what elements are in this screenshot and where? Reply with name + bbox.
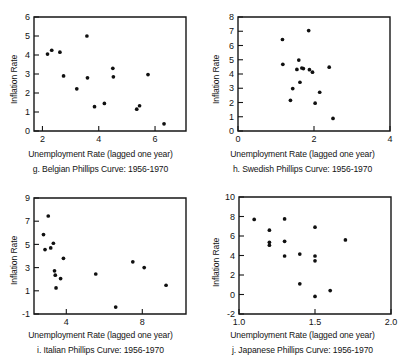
data-point: [62, 74, 66, 78]
data-point: [142, 266, 146, 270]
y-axis-title-italian: Inflation Rate: [9, 236, 19, 285]
y-tick-label: 2: [230, 270, 235, 280]
y-tick-label: 10: [225, 192, 235, 202]
data-point: [297, 58, 301, 62]
y-tick-label: 8: [230, 212, 235, 222]
data-point: [298, 80, 302, 84]
y-tick-label: 2: [229, 98, 234, 108]
y-tick-label: 1: [25, 286, 30, 296]
data-point: [164, 283, 168, 287]
data-point: [308, 68, 312, 72]
chart-panel-swedish: 012345678024 Unemployment Rate (lagged o…: [202, 0, 403, 181]
y-tick-label: 4: [25, 50, 30, 60]
data-point: [302, 67, 306, 71]
data-point: [327, 65, 331, 69]
x-tick-label: 6: [153, 134, 158, 144]
plot-frame: [238, 17, 390, 131]
plot-frame: [34, 17, 186, 131]
data-point: [289, 99, 293, 103]
data-point: [54, 286, 58, 290]
data-point: [138, 104, 142, 108]
data-point: [111, 66, 115, 70]
data-point: [135, 107, 139, 111]
x-tick-label: 1.0: [233, 317, 246, 327]
data-point: [283, 240, 287, 244]
data-point: [318, 90, 322, 94]
data-point: [313, 225, 317, 229]
y-tick-label: 8: [229, 12, 234, 22]
data-point: [281, 62, 285, 66]
data-point: [252, 218, 256, 222]
y-axis-title-japanese: Inflation Rate: [211, 238, 221, 287]
data-point: [295, 68, 299, 72]
x-tick-label: 4: [96, 134, 101, 144]
data-point: [94, 272, 98, 276]
y-tick-label: 0: [230, 290, 235, 300]
data-point: [75, 87, 79, 91]
data-point: [131, 260, 135, 264]
y-tick-label: 4: [230, 251, 235, 261]
data-point: [298, 282, 302, 286]
data-point: [328, 289, 332, 293]
y-tick-label: 0: [25, 126, 30, 136]
phillips-curve-figure: 0123456246 Unemployment Rate (lagged one…: [0, 0, 403, 363]
y-tick-label: 5: [25, 240, 30, 250]
x-axis-title-italian: Unemployment Rate (lagged one year): [0, 330, 201, 340]
data-point: [146, 73, 150, 77]
data-point: [313, 259, 317, 263]
y-tick-label: 0: [229, 126, 234, 136]
data-point: [112, 75, 116, 79]
data-point: [93, 105, 97, 109]
data-point: [43, 248, 47, 252]
y-tick-label: 2: [25, 88, 30, 98]
y-tick-label: 5: [25, 31, 30, 41]
data-point: [298, 252, 302, 256]
data-point: [268, 243, 272, 247]
data-point: [281, 38, 285, 42]
data-point: [86, 76, 90, 80]
chart-caption-belgian: g. Belgian Phillips Curve: 1956-1970: [0, 164, 201, 174]
data-point: [59, 277, 63, 281]
y-tick-label: 3: [229, 83, 234, 93]
x-tick-label: 2: [311, 134, 316, 144]
data-point: [52, 241, 56, 245]
data-point: [46, 52, 50, 56]
y-axis-title-swedish: Inflation Rate: [211, 55, 221, 104]
data-point: [50, 48, 54, 52]
data-point: [42, 233, 46, 237]
x-axis-title-swedish: Unemployment Rate (lagged one year): [202, 149, 403, 159]
y-tick-label: 6: [25, 12, 30, 22]
plot-frame: [34, 198, 186, 314]
data-point: [283, 217, 287, 221]
y-tick-label: 4: [229, 69, 234, 79]
data-point: [313, 101, 317, 105]
y-tick-label: 9: [25, 193, 30, 203]
x-tick-label: 4: [64, 317, 69, 327]
x-tick-label: 4: [387, 134, 392, 144]
data-point: [62, 256, 66, 260]
data-point: [58, 50, 62, 54]
data-point: [49, 246, 53, 250]
x-tick-label: 2.0: [385, 317, 398, 327]
data-point: [283, 254, 287, 258]
chart-panel-japanese: -202468101.01.52.0 Unemployment Rate (la…: [202, 181, 403, 362]
x-axis-title-japanese: Unemployment Rate (lagged one year): [202, 330, 403, 340]
data-point: [103, 102, 107, 106]
data-point: [311, 70, 315, 74]
x-tick-label: 0: [235, 134, 240, 144]
x-tick-label: 8: [140, 317, 145, 327]
x-tick-label: 2: [40, 134, 45, 144]
data-point: [114, 305, 118, 309]
chart-panel-italian: -11357948 Unemployment Rate (lagged one …: [0, 181, 201, 362]
data-point: [291, 87, 295, 91]
y-tick-label: 7: [25, 216, 30, 226]
y-tick-label: 6: [229, 41, 234, 51]
data-point: [331, 117, 335, 121]
chart-panel-belgian: 0123456246 Unemployment Rate (lagged one…: [0, 0, 201, 181]
data-point: [307, 29, 311, 33]
chart-caption-swedish: h. Swedish Phillips Curve: 1956-1970: [202, 164, 403, 174]
data-point: [46, 214, 50, 218]
y-axis-title-belgian: Inflation Rate: [9, 55, 19, 104]
data-point: [162, 122, 166, 126]
x-tick-label: 1.5: [309, 317, 322, 327]
